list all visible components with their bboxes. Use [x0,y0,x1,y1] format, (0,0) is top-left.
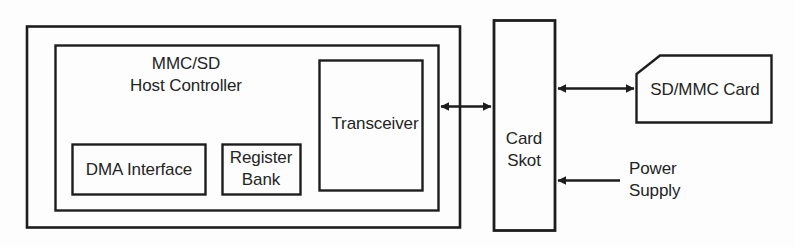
card-slot-box [494,21,555,231]
dma-interface-label: DMA Interface [86,160,192,179]
power-supply-label-line2: Supply [629,181,680,200]
card-slot-label-line1: Card [506,129,542,148]
host-controller-label-line1: MMC/SD [152,54,220,73]
power-supply-label-line1: Power [629,159,677,178]
register-bank-label-line1: Register [230,148,293,167]
card-slot-label-line2: Skot [507,151,541,170]
block-diagram-canvas: MMC/SD Host Controller DMA Interface Reg… [0,0,795,247]
host-controller-label-line2: Host Controller [130,76,242,95]
register-bank-label-line2: Bank [242,170,280,189]
sd-mmc-card-label: SD/MMC Card [650,80,759,99]
transceiver-label: Transceiver [331,114,418,133]
